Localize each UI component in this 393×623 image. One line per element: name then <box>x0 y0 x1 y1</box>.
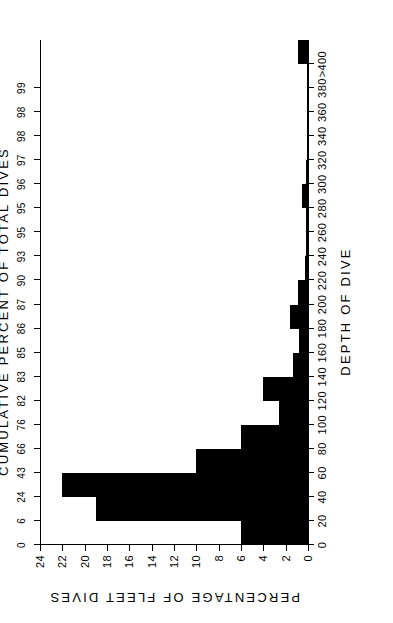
histogram-bars <box>40 40 308 545</box>
histogram-bar <box>279 401 308 425</box>
y-tick <box>241 545 242 551</box>
cumulative-tick-label: 85 <box>16 347 27 359</box>
x-tick <box>308 352 314 353</box>
x-tick <box>308 87 314 88</box>
x-tick <box>308 472 314 473</box>
x-axis-title: DEPTH OF DIVE <box>338 0 353 623</box>
x-tick-label: 60 <box>316 466 328 479</box>
histogram-bar <box>293 353 308 377</box>
x-tick <box>308 159 314 160</box>
histogram-bar <box>299 329 308 353</box>
y-tick <box>40 545 41 551</box>
x-tick <box>308 424 314 425</box>
cumulative-tick-label: 83 <box>16 371 27 383</box>
cumulative-tick-label: 66 <box>16 443 27 455</box>
y-tick-label: 2 <box>280 555 292 583</box>
x-tick-label: 380 <box>316 78 328 98</box>
x-tick-label: 0 <box>316 542 328 549</box>
cumulative-tick-label: 99 <box>16 82 27 94</box>
x-tick-label: 20 <box>316 514 328 527</box>
histogram-bar <box>96 497 308 521</box>
y-tick-label: 14 <box>146 555 158 583</box>
y-tick-label: 4 <box>257 555 269 583</box>
y-tick-label: 6 <box>235 555 247 583</box>
x-tick-label: 100 <box>316 415 328 435</box>
x-tick-label: 40 <box>316 490 328 503</box>
x-tick-label: 340 <box>316 126 328 146</box>
cumulative-axis-title: CUMULATIVE PERCENT OF TOTAL DIVES <box>0 0 11 623</box>
x-tick-label: 180 <box>316 319 328 339</box>
y-tick <box>62 545 63 551</box>
y-tick <box>174 545 175 551</box>
y-tick <box>107 545 108 551</box>
y-tick <box>152 545 153 551</box>
plot-area <box>40 40 308 545</box>
cumulative-tick-label: 96 <box>16 179 27 191</box>
y-tick <box>196 545 197 551</box>
y-tick <box>85 545 86 551</box>
y-tick-label: 20 <box>79 555 91 583</box>
y-tick <box>219 545 220 551</box>
y-tick <box>286 545 287 551</box>
x-tick <box>308 183 314 184</box>
x-tick-label: 260 <box>316 223 328 243</box>
y-tick-label: 12 <box>168 555 180 583</box>
histogram-bar <box>263 377 308 401</box>
x-tick <box>308 279 314 280</box>
x-tick-label: >400 <box>316 51 328 77</box>
cumulative-tick-label: 0 <box>16 542 27 548</box>
histogram-bar <box>241 425 308 449</box>
x-tick <box>308 520 314 521</box>
x-tick-label: 280 <box>316 199 328 219</box>
y-tick-label: 18 <box>101 555 113 583</box>
x-tick-label: 220 <box>316 271 328 291</box>
x-tick-label: 200 <box>316 295 328 315</box>
x-tick <box>308 135 314 136</box>
x-tick <box>308 255 314 256</box>
histogram-bar <box>62 473 308 497</box>
histogram-bar <box>298 280 308 304</box>
y-tick-label: 16 <box>123 555 135 583</box>
x-tick <box>308 376 314 377</box>
cumulative-tick-label: 95 <box>16 203 27 215</box>
x-tick <box>308 496 314 497</box>
cumulative-tick-label: 86 <box>16 323 27 335</box>
histogram-bar <box>196 449 308 473</box>
x-tick <box>308 328 314 329</box>
y-tick <box>263 545 264 551</box>
x-tick-label: 300 <box>316 175 328 195</box>
cumulative-tick-label: 98 <box>16 106 27 118</box>
cumulative-tick-label: 87 <box>16 299 27 311</box>
rotated-chart-canvas: CUMULATIVE PERCENT OF TOTAL DIVES 062443… <box>0 0 393 623</box>
histogram-bar <box>290 305 308 329</box>
cumulative-tick-label: 43 <box>16 467 27 479</box>
x-tick-label: 140 <box>316 367 328 387</box>
y-tick <box>129 545 130 551</box>
y-tick-label: 10 <box>190 555 202 583</box>
x-tick <box>308 400 314 401</box>
y-tick-label: 0 <box>302 555 314 583</box>
figure-frame: CUMULATIVE PERCENT OF TOTAL DIVES 062443… <box>0 0 393 623</box>
x-tick <box>308 304 314 305</box>
histogram-bar <box>241 521 308 545</box>
cumulative-tick-label: 6 <box>16 518 27 524</box>
cumulative-tick-label: 76 <box>16 419 27 431</box>
y-tick-label: 22 <box>56 555 68 583</box>
x-tick <box>308 231 314 232</box>
x-tick <box>308 111 314 112</box>
cumulative-tick-label: 97 <box>16 154 27 166</box>
cumulative-tick-label: 82 <box>16 395 27 407</box>
x-tick <box>308 448 314 449</box>
y-tick-label: 8 <box>213 555 225 583</box>
x-tick <box>308 63 314 64</box>
x-tick-label: 320 <box>316 150 328 170</box>
cumulative-tick-label: 93 <box>16 251 27 263</box>
x-tick-label: 80 <box>316 442 328 455</box>
x-tick-label: 240 <box>316 247 328 267</box>
y-tick <box>308 545 309 551</box>
cumulative-tick-label: 98 <box>16 130 27 142</box>
cumulative-tick-label: 24 <box>16 491 27 503</box>
cumulative-tick-label: 90 <box>16 275 27 287</box>
x-tick-label: 160 <box>316 343 328 363</box>
x-tick-label: 360 <box>316 102 328 122</box>
